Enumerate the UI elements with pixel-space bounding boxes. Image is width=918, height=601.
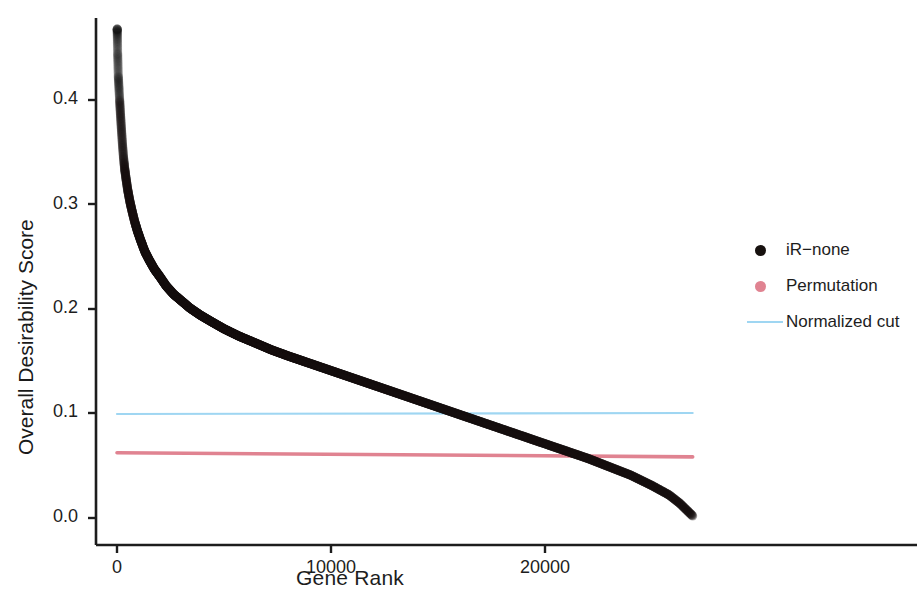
pink-dot-icon <box>755 281 766 292</box>
y-tick-label-0.0: 0.0 <box>18 506 78 527</box>
legend-label-permutation: Permutation <box>786 276 878 296</box>
normalized-cut-line <box>117 413 693 414</box>
legend-key-ir-none <box>744 232 786 268</box>
legend-item-ir-none: iR−none <box>744 232 918 268</box>
x-tick-label-20000: 20000 <box>485 557 605 578</box>
legend-label-ir-none: iR−none <box>786 240 850 260</box>
y-tick-label-0.2: 0.2 <box>18 297 78 318</box>
legend-label-normalized-cut: Normalized cut <box>786 312 899 332</box>
y-tick-label-0.4: 0.4 <box>18 88 78 109</box>
chart-legend: iR−none Permutation Normalized cut <box>744 232 918 340</box>
x-tick-label-10000: 10000 <box>271 557 391 578</box>
y-tick-label-0.3: 0.3 <box>18 193 78 214</box>
chart-figure: Overall Desirability Score Gene Rank 0.4… <box>0 0 918 601</box>
legend-key-permutation <box>744 268 786 304</box>
black-dot-icon <box>755 245 766 256</box>
blue-line-icon <box>747 321 783 323</box>
permutation-line <box>117 453 693 457</box>
legend-key-normalized-cut <box>744 304 786 340</box>
y-tick-label-0.1: 0.1 <box>18 401 78 422</box>
x-tick-label-0: 0 <box>57 557 177 578</box>
scatter-series-ir-none <box>113 24 698 520</box>
legend-item-permutation: Permutation <box>744 268 918 304</box>
legend-item-normalized-cut: Normalized cut <box>744 304 918 340</box>
